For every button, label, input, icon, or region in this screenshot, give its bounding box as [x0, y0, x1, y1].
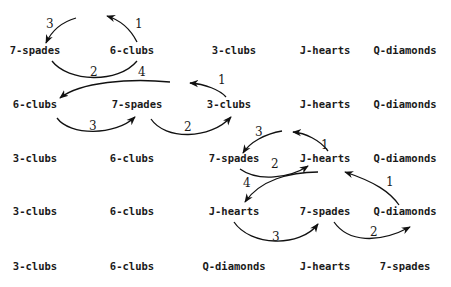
- step-label-r1-3: 3: [89, 119, 97, 133]
- step-label-r1-2: 2: [184, 120, 192, 134]
- card-r2-c0: 3-clubs: [13, 152, 57, 164]
- step-label-r3-2: 2: [370, 225, 378, 239]
- card-r0-c3: J-hearts: [300, 44, 351, 56]
- card-r0-c0: 7-spades: [10, 44, 61, 56]
- step-label-r2-2: 2: [271, 157, 279, 171]
- card-r3-c0: 3-clubs: [13, 205, 57, 217]
- step-label-r3-4: 4: [243, 176, 251, 190]
- step-label-r3-1: 1: [386, 175, 394, 189]
- card-r3-c1: 6-clubs: [110, 205, 154, 217]
- card-r4-c2: Q-diamonds: [202, 260, 265, 272]
- card-r1-c3: J-hearts: [300, 98, 351, 110]
- card-r4-c4: 7-spades: [380, 260, 431, 272]
- arrow-r1-4: [60, 81, 170, 98]
- step-label-r2-1: 1: [321, 138, 329, 152]
- card-r1-c0: 6-clubs: [13, 98, 57, 110]
- step-label-r0-3: 3: [46, 17, 54, 31]
- card-r0-c1: 6-clubs: [110, 44, 154, 56]
- card-r0-c4: Q-diamonds: [373, 44, 436, 56]
- card-r2-c2: 7-spades: [209, 152, 260, 164]
- step-label-r0-2: 2: [90, 65, 98, 79]
- card-r3-c3: 7-spades: [300, 205, 351, 217]
- step-label-r2-3: 3: [255, 125, 263, 139]
- card-r3-c2: J-hearts: [209, 205, 260, 217]
- card-r0-c2: 3-clubs: [212, 44, 256, 56]
- step-label-r1-4: 4: [138, 65, 146, 79]
- card-r2-c1: 6-clubs: [110, 152, 154, 164]
- step-label-r1-1: 1: [218, 73, 226, 87]
- card-r2-c4: Q-diamonds: [373, 152, 436, 164]
- card-r1-c1: 7-spades: [112, 98, 163, 110]
- card-r1-c2: 3-clubs: [207, 98, 251, 110]
- arrow-r0-1: [107, 16, 137, 42]
- card-r4-c3: J-hearts: [300, 260, 351, 272]
- card-r2-c3: J-hearts: [300, 152, 351, 164]
- step-label-r0-1: 1: [135, 17, 143, 31]
- card-r3-c4: Q-diamonds: [373, 205, 436, 217]
- card-r1-c4: Q-diamonds: [373, 98, 436, 110]
- card-r4-c1: 6-clubs: [110, 260, 154, 272]
- step-label-r3-3: 3: [272, 230, 280, 244]
- card-r4-c0: 3-clubs: [13, 260, 57, 272]
- card-sort-diagram: 7-spades 6-clubs 3-clubs J-hearts Q-diam…: [0, 0, 451, 287]
